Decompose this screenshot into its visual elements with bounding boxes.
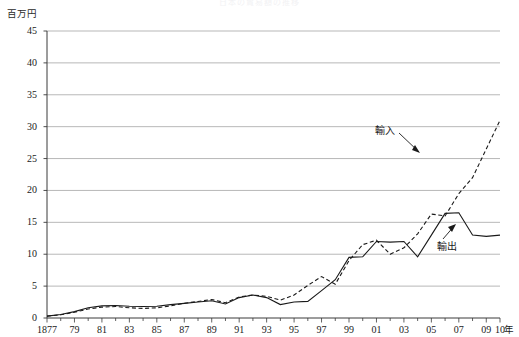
exports-arrow-head [448, 224, 456, 232]
y-tick-label: 30 [13, 122, 37, 132]
y-tick-label: 10 [13, 249, 37, 259]
annotation-arrows [399, 133, 456, 239]
x-tick-marks [47, 318, 500, 323]
y-tick-label: 5 [13, 281, 37, 291]
series-label-imports: 輸入 [375, 122, 395, 137]
plot-area [0, 0, 519, 337]
series-line-imports [47, 120, 500, 316]
y-tick-label: 0 [13, 313, 37, 323]
gridlines [44, 31, 501, 318]
chart-figure: 日本の貿易額の推移 百万円 051015202530354045 1877798… [0, 0, 519, 337]
y-tick-label: 40 [13, 58, 37, 68]
y-tick-label: 35 [13, 90, 37, 100]
y-tick-label: 45 [13, 26, 37, 36]
y-tick-label: 25 [13, 154, 37, 164]
x-axis-unit-label: 年 [504, 322, 514, 336]
series-line-exports [47, 213, 500, 316]
axes [47, 31, 500, 318]
series-label-exports: 輸出 [437, 238, 457, 253]
y-tick-label: 15 [13, 217, 37, 227]
y-tick-label: 20 [13, 185, 37, 195]
